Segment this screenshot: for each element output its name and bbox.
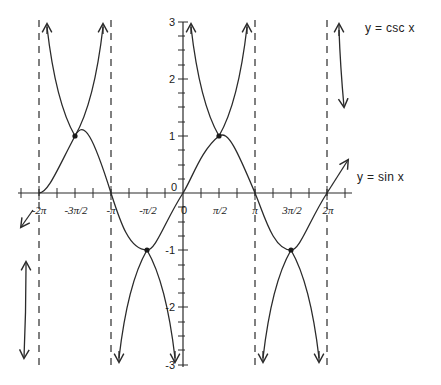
csc-curve-label: y = csc x — [365, 21, 415, 35]
x-tick-label-minus-2pi: -2π — [32, 204, 47, 216]
y-tick-label-2: 2 — [169, 73, 175, 85]
x-tick-label-minus-3pi-over-2: -3π/2 — [64, 204, 88, 216]
sin-curve-label: y = sin x — [357, 170, 404, 184]
x-tick-label-zero: 0 — [181, 204, 187, 216]
csc-branch-3 — [191, 27, 247, 136]
x-tick-label-2pi: 2π — [322, 204, 334, 216]
y-tick-label-minus-2: -2 — [165, 301, 175, 313]
axes-group — [18, 22, 352, 367]
x-tick-labels: -2π -3π/2 -π -π/2 0 π/2 π 3π/2 2π — [32, 204, 334, 216]
graph-figure: -2π -3π/2 -π -π/2 0 π/2 π 3π/2 2π 3 2 1 … — [0, 0, 441, 385]
x-tick-label-pi: π — [252, 204, 258, 216]
y-tick-label-minus-3: -3 — [165, 359, 175, 371]
point-3pi-over-2 — [288, 247, 293, 252]
sin-curve — [21, 130, 348, 250]
x-tick-label-pi-over-2: π/2 — [213, 204, 228, 216]
point-pi-over-2 — [216, 133, 221, 138]
point-minus-3pi-over-2 — [72, 133, 77, 138]
csc-branch-right-outer — [339, 30, 344, 107]
y-tick-label-minus-1: -1 — [165, 244, 175, 256]
point-minus-pi-over-2 — [144, 247, 149, 252]
curve-annotations: y = csc x y = sin x — [357, 21, 415, 184]
y-tick-label-0: 0 — [171, 181, 177, 193]
x-tick-label-3pi-over-2: 3π/2 — [281, 204, 302, 216]
csc-branch-1 — [47, 27, 103, 136]
graph-canvas: -2π -3π/2 -π -π/2 0 π/2 π 3π/2 2π 3 2 1 … — [0, 0, 441, 385]
x-tick-label-minus-pi-over-2: -π/2 — [139, 204, 157, 216]
y-tick-label-3: 3 — [169, 16, 175, 28]
x-tick-label-minus-pi: -π — [106, 204, 116, 216]
csc-branch-4 — [263, 250, 319, 358]
y-tick-label-1: 1 — [169, 130, 175, 142]
csc-branch-left-outer — [24, 268, 26, 358]
